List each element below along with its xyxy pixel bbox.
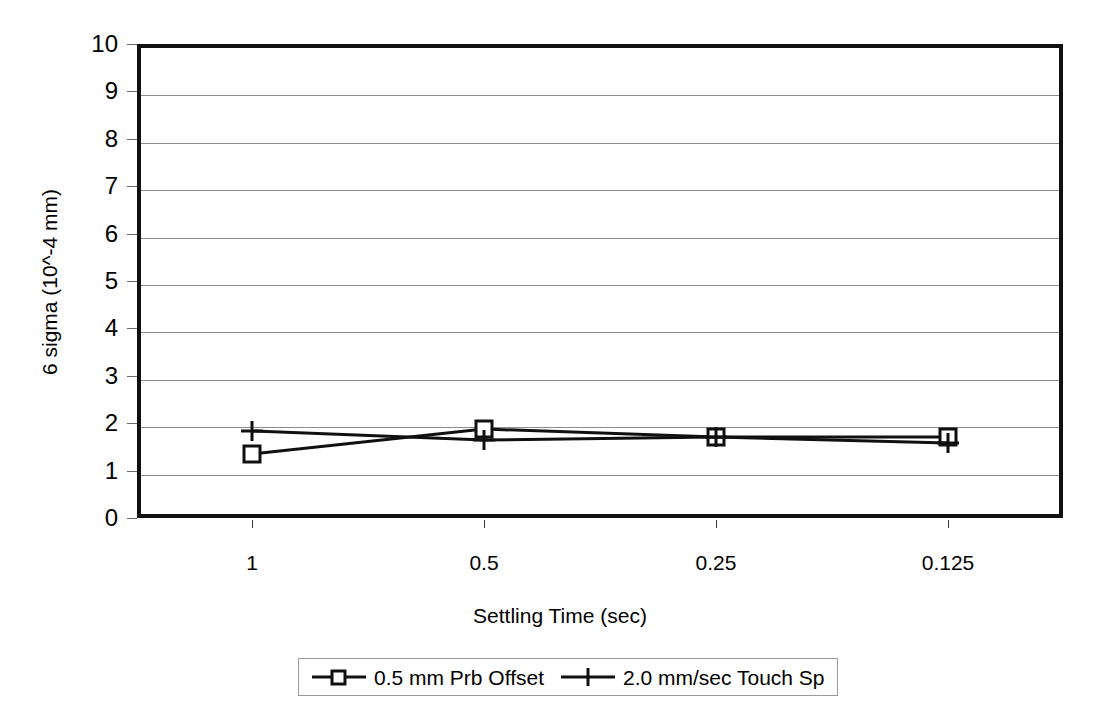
y-tick-mark <box>127 281 137 282</box>
gridline <box>141 95 1059 96</box>
square-marker-icon <box>311 666 367 688</box>
y-tick-mark <box>127 91 137 92</box>
x-tick-mark <box>484 520 485 528</box>
y-tick-label-6: 6 <box>70 222 118 246</box>
y-tick-mark <box>127 139 137 140</box>
x-axis-title: Settling Time (sec) <box>0 604 1120 628</box>
y-tick-label-3: 3 <box>70 364 118 388</box>
plus-marker-icon <box>560 666 616 688</box>
gridline <box>141 238 1059 239</box>
y-tick-label-5: 5 <box>70 269 118 293</box>
x-tick-mark <box>948 520 949 528</box>
y-tick-label-10: 10 <box>70 32 118 56</box>
gridline <box>141 143 1059 144</box>
legend: 0.5 mm Prb Offset 2.0 mm/sec Touch Sp <box>298 658 838 696</box>
y-tick-mark <box>127 423 137 424</box>
x-tick-label-0.5: 0.5 <box>424 552 544 573</box>
gridline <box>141 380 1059 381</box>
gridline <box>141 332 1059 333</box>
x-tick-mark <box>716 520 717 528</box>
x-tick-label-0.25: 0.25 <box>656 552 776 573</box>
gridline <box>141 475 1059 476</box>
y-tick-mark <box>127 186 137 187</box>
y-tick-mark <box>127 471 137 472</box>
y-tick-mark <box>127 518 137 519</box>
legend-entry-0.5-mm-prb-offset[interactable]: 0.5 mm Prb Offset <box>311 659 544 695</box>
legend-entry-2.0-mm-per-sec-touch-sp[interactable]: 2.0 mm/sec Touch Sp <box>560 659 825 695</box>
y-tick-mark <box>127 44 137 45</box>
y-axis-title: 6 sigma (10^-4 mm) <box>38 189 62 375</box>
y-tick-label-7: 7 <box>70 174 118 198</box>
x-tick-label-0.125: 0.125 <box>888 552 1008 573</box>
plot-area <box>137 44 1063 518</box>
x-tick-label-1: 1 <box>192 552 312 573</box>
gridline <box>141 190 1059 191</box>
gridline <box>141 427 1059 428</box>
y-tick-mark <box>127 376 137 377</box>
y-tick-label-0: 0 <box>70 506 118 530</box>
y-tick-label-8: 8 <box>70 127 118 151</box>
y-tick-mark <box>127 328 137 329</box>
gridline <box>141 285 1059 286</box>
y-tick-mark <box>127 234 137 235</box>
y-tick-label-1: 1 <box>70 459 118 483</box>
x-tick-mark <box>252 520 253 528</box>
y-tick-label-2: 2 <box>70 411 118 435</box>
y-tick-label-9: 9 <box>70 79 118 103</box>
chart-figure: 10 9 8 7 6 5 4 3 2 1 0 6 sigma (10^-4 mm… <box>0 0 1120 724</box>
legend-label: 2.0 mm/sec Touch Sp <box>623 667 825 688</box>
legend-label: 0.5 mm Prb Offset <box>374 667 544 688</box>
y-tick-label-4: 4 <box>70 316 118 340</box>
